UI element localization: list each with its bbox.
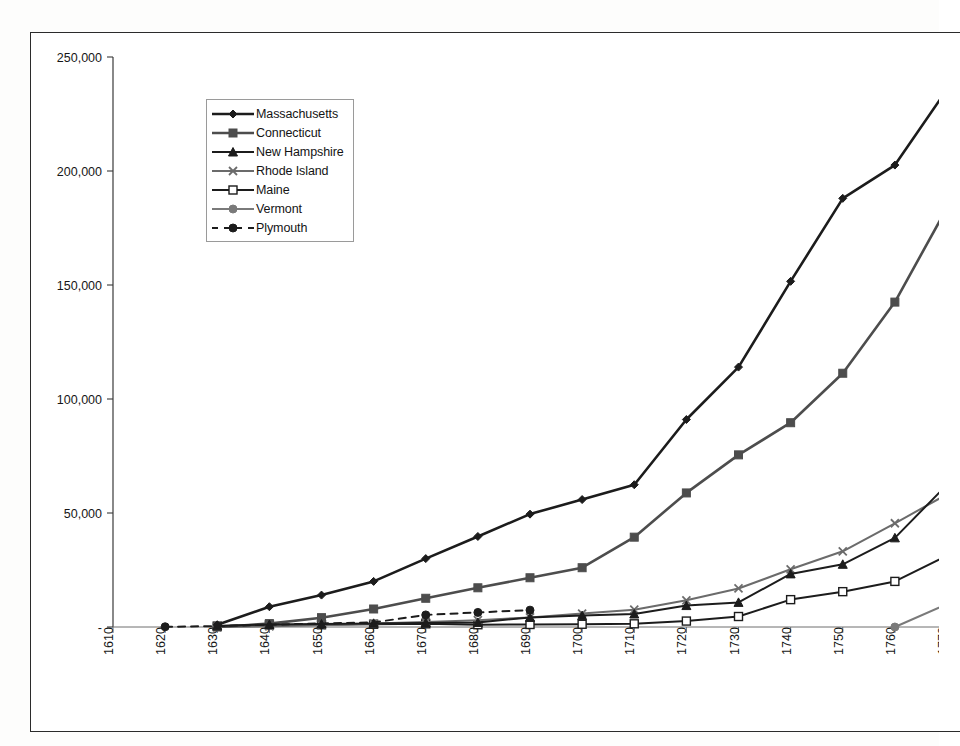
data-point-marker <box>370 577 378 585</box>
data-point-marker <box>578 496 586 504</box>
y-tick-label: 50,000 <box>64 507 102 521</box>
legend-marker <box>229 129 237 137</box>
data-point-marker <box>578 620 586 628</box>
x-tick-label: 1670 <box>415 627 429 655</box>
legend-swatch-circle-icon <box>210 220 256 236</box>
data-point-marker <box>474 608 482 616</box>
legend-item-vermont[interactable]: Vermont <box>210 199 349 218</box>
x-tick-label: 1610 <box>102 627 116 655</box>
data-point-marker <box>474 532 482 540</box>
legend-label: Connecticut <box>256 125 321 141</box>
data-point-marker <box>891 519 899 527</box>
data-point-marker <box>474 584 482 592</box>
legend-swatch-triangle-icon <box>210 144 256 160</box>
data-point-marker <box>370 605 378 613</box>
legend-label: Massachusetts <box>256 106 338 122</box>
legend-item-plymouth[interactable]: Plymouth <box>210 218 349 237</box>
legend-item-new-hampshire[interactable]: New Hampshire <box>210 142 349 161</box>
data-point-marker <box>526 510 534 518</box>
x-tick-label: 1690 <box>519 627 533 655</box>
data-point-marker <box>630 620 638 628</box>
legend-item-massachusetts[interactable]: Massachusetts <box>210 104 349 123</box>
legend-label: Vermont <box>256 201 302 217</box>
chart-legend: MassachusettsConnecticutNew HampshireRho… <box>206 99 354 242</box>
data-point-marker <box>891 623 899 631</box>
data-point-marker <box>787 596 795 604</box>
data-point-marker <box>318 591 326 599</box>
legend-swatch-square-icon <box>210 125 256 141</box>
series-line <box>895 604 939 627</box>
legend-marker <box>229 205 237 213</box>
data-point-marker <box>422 611 430 619</box>
x-tick-label: 1740 <box>780 627 794 655</box>
x-tick-label: 1770 <box>936 627 939 655</box>
data-point-marker <box>735 613 743 621</box>
legend-marker <box>229 186 237 194</box>
data-point-marker <box>839 369 847 377</box>
data-point-marker <box>891 577 899 585</box>
data-point-marker <box>630 533 638 541</box>
data-point-marker <box>839 588 847 596</box>
y-tick-label: 100,000 <box>57 393 102 407</box>
data-point-marker <box>161 623 169 631</box>
data-point-marker <box>422 594 430 602</box>
data-point-marker <box>735 451 743 459</box>
x-tick-label: 1660 <box>363 627 377 655</box>
x-tick-label: 1750 <box>832 627 846 655</box>
legend-swatch-circle-icon <box>210 201 256 217</box>
x-tick-labels-group: 1610162016301640165016601670168016901700… <box>102 627 939 655</box>
legend-swatch-open-square-icon <box>210 182 256 198</box>
data-point-marker <box>526 606 534 614</box>
legend-swatch-diamond-icon <box>210 106 256 122</box>
legend-marker <box>229 224 237 232</box>
x-tick-label: 1680 <box>467 627 481 655</box>
x-tick-label: 1700 <box>571 627 585 655</box>
series-line <box>217 494 939 627</box>
legend-marker <box>229 110 237 118</box>
x-tick-label: 1710 <box>623 627 637 655</box>
legend-label: Plymouth <box>256 220 307 236</box>
data-point-marker <box>682 617 690 625</box>
data-point-marker <box>682 489 690 497</box>
legend-item-rhode-island[interactable]: Rhode Island <box>210 161 349 180</box>
x-tick-label: 1620 <box>154 627 168 655</box>
legend-swatch-x-icon <box>210 163 256 179</box>
data-point-marker <box>265 603 273 611</box>
series-vermont <box>891 600 939 631</box>
x-tick-label: 1650 <box>311 627 325 655</box>
legend-label: Rhode Island <box>256 163 328 179</box>
data-point-marker <box>526 574 534 582</box>
legend-label: New Hampshire <box>256 144 344 160</box>
legend-label: Maine <box>256 182 290 198</box>
x-tick-label: 1640 <box>258 627 272 655</box>
legend-item-connecticut[interactable]: Connecticut <box>210 123 349 142</box>
legend-item-maine[interactable]: Maine <box>210 180 349 199</box>
y-tick-label: 200,000 <box>57 165 102 179</box>
data-point-marker <box>422 555 430 563</box>
y-tick-label: 150,000 <box>57 279 102 293</box>
series-rhode-island <box>213 490 939 631</box>
data-point-marker <box>891 298 899 306</box>
data-point-marker <box>787 419 795 427</box>
y-tick-label: 250,000 <box>57 51 102 65</box>
x-tick-label: 1730 <box>728 627 742 655</box>
y-tick-labels-group: -50,000100,000150,000200,000250,000 <box>57 51 102 635</box>
data-point-marker <box>578 564 586 572</box>
x-tick-label: 1720 <box>675 627 689 655</box>
